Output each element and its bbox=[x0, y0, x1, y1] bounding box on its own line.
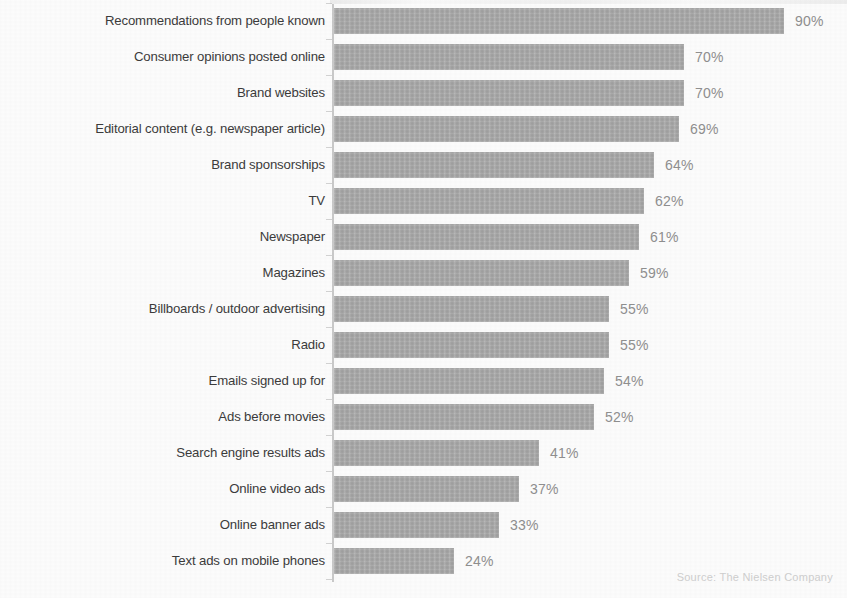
bar-category-label: Newspaper bbox=[260, 224, 325, 250]
bar-category-label: Text ads on mobile phones bbox=[172, 548, 325, 574]
bar-value-label: 55% bbox=[620, 296, 649, 322]
bar-fill bbox=[334, 152, 654, 178]
bar-row: Ads before movies52% bbox=[0, 404, 847, 440]
bar-row: Consumer opinions posted online70% bbox=[0, 44, 847, 80]
bar-fill bbox=[334, 512, 499, 538]
bar-fill bbox=[334, 116, 679, 142]
bar-value-label: 64% bbox=[665, 152, 694, 178]
bar-value-label: 70% bbox=[695, 80, 724, 106]
bar-track bbox=[334, 188, 644, 214]
bar-value-label: 55% bbox=[620, 332, 649, 358]
axis-tick bbox=[326, 111, 332, 112]
axis-tick bbox=[326, 75, 332, 76]
plot-area: Recommendations from people known90%Cons… bbox=[0, 0, 847, 598]
bar-row: Search engine results ads41% bbox=[0, 440, 847, 476]
bar-track bbox=[334, 8, 784, 34]
bar-category-label: Recommendations from people known bbox=[105, 8, 325, 34]
chart-container: Recommendations from people known90%Cons… bbox=[0, 0, 847, 598]
bar-category-label: Search engine results ads bbox=[176, 440, 325, 466]
bar-row: Recommendations from people known90% bbox=[0, 8, 847, 44]
bar-row: Emails signed up for54% bbox=[0, 368, 847, 404]
bar-track bbox=[334, 332, 609, 358]
bar-value-label: 24% bbox=[465, 548, 494, 574]
bar-value-label: 41% bbox=[550, 440, 579, 466]
bar-track bbox=[334, 440, 539, 466]
axis-tick bbox=[326, 579, 332, 580]
axis-tick bbox=[326, 291, 332, 292]
bar-value-label: 37% bbox=[530, 476, 559, 502]
bar-fill bbox=[334, 476, 519, 502]
bar-fill bbox=[334, 8, 784, 34]
bar-fill bbox=[334, 440, 539, 466]
source-attribution: Source: The Nielsen Company bbox=[677, 571, 833, 583]
bar-fill bbox=[334, 404, 594, 430]
bar-value-label: 59% bbox=[640, 260, 669, 286]
bar-row: Editorial content (e.g. newspaper articl… bbox=[0, 116, 847, 152]
bar-fill bbox=[334, 296, 609, 322]
axis-tick bbox=[326, 507, 332, 508]
axis-tick bbox=[326, 183, 332, 184]
bar-track bbox=[334, 404, 594, 430]
bar-track bbox=[334, 548, 454, 574]
bar-category-label: TV bbox=[308, 188, 325, 214]
bar-row: Newspaper61% bbox=[0, 224, 847, 260]
axis-tick bbox=[326, 399, 332, 400]
axis-tick bbox=[326, 255, 332, 256]
bar-fill bbox=[334, 224, 639, 250]
axis-tick bbox=[326, 435, 332, 436]
cropped-title-artifact bbox=[330, 0, 847, 4]
axis-tick bbox=[326, 39, 332, 40]
axis-tick bbox=[326, 363, 332, 364]
bar-fill bbox=[334, 80, 684, 106]
bar-row: Radio55% bbox=[0, 332, 847, 368]
axis-tick bbox=[326, 327, 332, 328]
bar-value-label: 69% bbox=[690, 116, 719, 142]
bar-value-label: 33% bbox=[510, 512, 539, 538]
bar-fill bbox=[334, 44, 684, 70]
axis-tick bbox=[326, 471, 332, 472]
axis-tick bbox=[326, 219, 332, 220]
bar-track bbox=[334, 152, 654, 178]
bar-fill bbox=[334, 548, 454, 574]
bar-category-label: Radio bbox=[291, 332, 325, 358]
bar-track bbox=[334, 296, 609, 322]
bar-value-label: 52% bbox=[605, 404, 634, 430]
bar-row: Online video ads37% bbox=[0, 476, 847, 512]
axis-tick bbox=[326, 543, 332, 544]
bar-row: Billboards / outdoor advertising55% bbox=[0, 296, 847, 332]
bar-row: Brand sponsorships64% bbox=[0, 152, 847, 188]
bar-value-label: 90% bbox=[795, 8, 824, 34]
bar-track bbox=[334, 368, 604, 394]
bar-value-label: 70% bbox=[695, 44, 724, 70]
bar-value-label: 61% bbox=[650, 224, 679, 250]
bar-track bbox=[334, 116, 679, 142]
bar-category-label: Brand websites bbox=[237, 80, 325, 106]
bar-value-label: 62% bbox=[655, 188, 684, 214]
bar-fill bbox=[334, 332, 609, 358]
bar-fill bbox=[334, 188, 644, 214]
bar-category-label: Editorial content (e.g. newspaper articl… bbox=[95, 116, 325, 142]
bar-track bbox=[334, 44, 684, 70]
bar-row: TV62% bbox=[0, 188, 847, 224]
bar-category-label: Brand sponsorships bbox=[211, 152, 325, 178]
bar-category-label: Online banner ads bbox=[220, 512, 325, 538]
category-axis-line bbox=[332, 4, 334, 582]
bar-category-label: Magazines bbox=[263, 260, 325, 286]
bar-category-label: Emails signed up for bbox=[209, 368, 325, 394]
bar-category-label: Consumer opinions posted online bbox=[134, 44, 325, 70]
bar-track bbox=[334, 476, 519, 502]
bar-track bbox=[334, 224, 639, 250]
bar-row: Online banner ads33% bbox=[0, 512, 847, 548]
bar-fill bbox=[334, 260, 629, 286]
bar-category-label: Billboards / outdoor advertising bbox=[149, 296, 325, 322]
bar-category-label: Online video ads bbox=[229, 476, 325, 502]
bar-category-label: Ads before movies bbox=[218, 404, 325, 430]
bar-track bbox=[334, 260, 629, 286]
axis-tick bbox=[326, 147, 332, 148]
bar-track bbox=[334, 512, 499, 538]
bar-row: Magazines59% bbox=[0, 260, 847, 296]
bar-fill bbox=[334, 368, 604, 394]
bar-value-label: 54% bbox=[615, 368, 644, 394]
bar-row: Brand websites70% bbox=[0, 80, 847, 116]
bar-track bbox=[334, 80, 684, 106]
